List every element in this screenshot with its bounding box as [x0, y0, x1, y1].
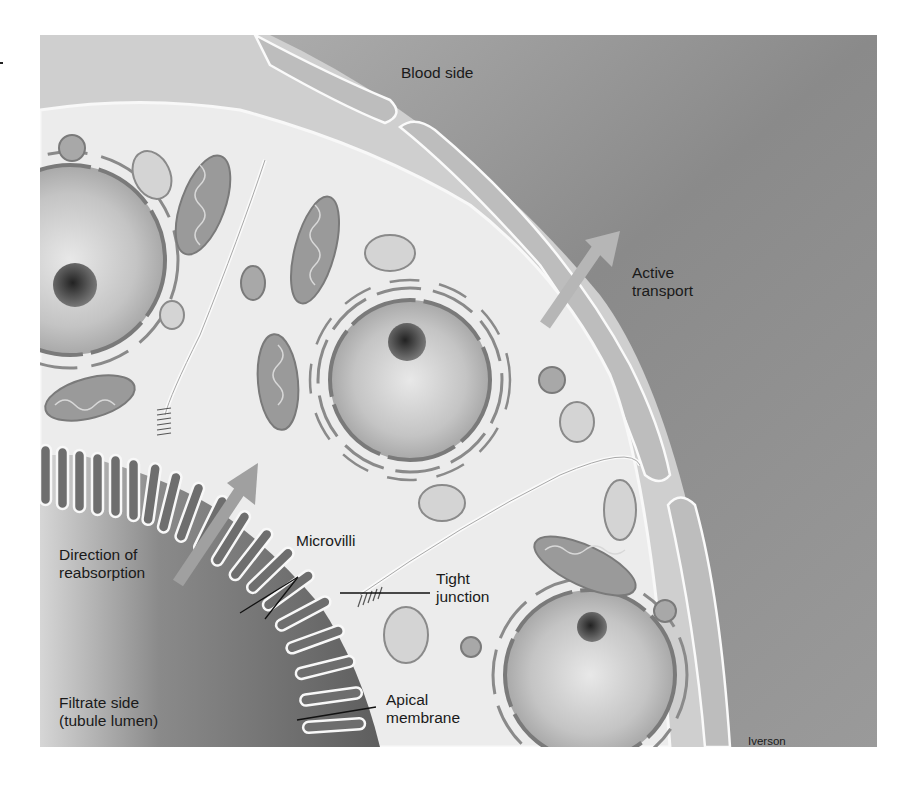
label-active-transport: Active transport — [632, 264, 693, 300]
label-line: junction — [436, 588, 489, 606]
label-line: Direction of — [59, 546, 145, 564]
label-line: reabsorption — [59, 564, 145, 582]
artist-credit: Iverson — [748, 732, 786, 747]
label-line: Tight — [436, 570, 489, 588]
label-line: Active — [632, 264, 693, 282]
stray-mark — [0, 62, 3, 64]
label-filtrate-side: Filtrate side (tubule lumen) — [59, 694, 158, 730]
label-tight-junction: Tight junction — [436, 570, 489, 606]
label-microvilli: Microvilli — [296, 532, 355, 550]
label-blood-side: Blood side — [401, 64, 473, 82]
label-line: transport — [632, 282, 693, 300]
reabsorption-illustration: Blood side Active transport Direction of… — [40, 35, 877, 747]
illustration-canvas — [40, 35, 877, 747]
label-line: (tubule lumen) — [59, 712, 158, 730]
label-apical-membrane: Apical membrane — [386, 691, 460, 727]
label-direction-of-reabsorption: Direction of reabsorption — [59, 546, 145, 582]
label-line: membrane — [386, 709, 460, 727]
label-line: Filtrate side — [59, 694, 158, 712]
label-line: Apical — [386, 691, 460, 709]
